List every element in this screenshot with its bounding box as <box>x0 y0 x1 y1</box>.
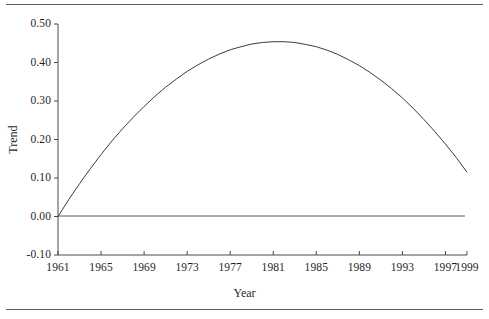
x-axis-group <box>58 251 467 255</box>
y-axis-tick-label: 0.40 <box>30 56 51 68</box>
x-axis-tick-label: 1981 <box>251 261 295 273</box>
x-axis-title: Year <box>0 286 489 301</box>
y-axis-tick-label: -0.10 <box>27 248 51 260</box>
x-axis-tick-label: 1999 <box>445 261 489 273</box>
chart-plot-area: -0.100.000.100.200.300.400.50 1961196519… <box>0 0 489 319</box>
x-axis-tick-label: 1965 <box>79 261 123 273</box>
figure-container: -0.100.000.100.200.300.400.50 1961196519… <box>0 0 489 319</box>
x-axis-ticks <box>58 251 467 255</box>
x-axis-tick-label: 1985 <box>294 261 338 273</box>
x-axis-tick-label: 1977 <box>208 261 252 273</box>
trend-curve <box>58 42 467 217</box>
y-axis-tick-label: 0.10 <box>30 171 51 183</box>
y-axis-tick-label: 0.20 <box>30 133 51 145</box>
y-axis-title: Trend <box>6 115 21 165</box>
y-axis-tick-label: 0.30 <box>30 94 51 106</box>
y-axis-group <box>54 24 58 255</box>
x-axis-tick-label: 1993 <box>380 261 424 273</box>
x-axis-tick-label: 1969 <box>122 261 166 273</box>
y-axis-tick-label: 0.50 <box>30 17 51 29</box>
x-axis-tick-label: 1973 <box>165 261 209 273</box>
y-axis-ticks <box>54 24 58 255</box>
x-axis-tick-label: 1961 <box>36 261 80 273</box>
x-axis-tick-label: 1989 <box>337 261 381 273</box>
y-axis-tick-label: 0.00 <box>30 210 51 222</box>
